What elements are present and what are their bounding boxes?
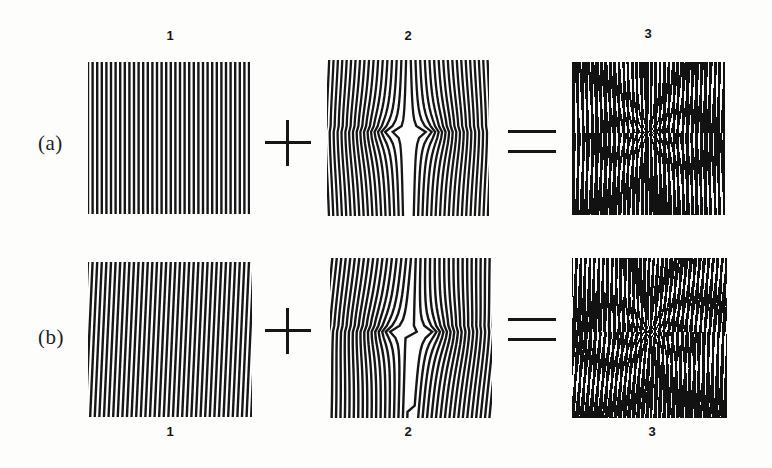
plus-vertical-stroke <box>286 120 289 166</box>
equals-bottom-stroke <box>508 338 556 341</box>
caption-b2: 2 <box>388 424 428 439</box>
panel-a1-reference-grating <box>88 62 250 214</box>
equals-operator-b <box>508 318 556 341</box>
panel-a3-moire-pattern <box>572 62 725 215</box>
plus-operator-b <box>265 308 311 354</box>
caption-b1: 1 <box>150 424 190 439</box>
panel-a2-specimen-grating <box>327 60 489 216</box>
caption-a3: 3 <box>628 26 668 41</box>
panel-b3-moire-pattern <box>572 258 727 418</box>
equals-top-stroke <box>508 130 556 133</box>
plus-vertical-stroke <box>286 308 289 354</box>
caption-b3: 3 <box>632 424 672 439</box>
panel-b1-reference-grating <box>88 262 252 417</box>
equals-top-stroke <box>508 318 556 321</box>
equals-operator-a <box>508 130 556 153</box>
caption-a1: 1 <box>150 28 190 43</box>
plus-operator-a <box>265 120 311 166</box>
row-label-b: (b) <box>38 325 64 350</box>
equals-bottom-stroke <box>508 150 556 153</box>
figure-root: (a) 1 2 3 (b) 1 2 3 <box>0 0 772 468</box>
row-label-a: (a) <box>38 131 63 156</box>
caption-a2: 2 <box>388 28 428 43</box>
panel-b2-specimen-grating <box>330 258 492 418</box>
